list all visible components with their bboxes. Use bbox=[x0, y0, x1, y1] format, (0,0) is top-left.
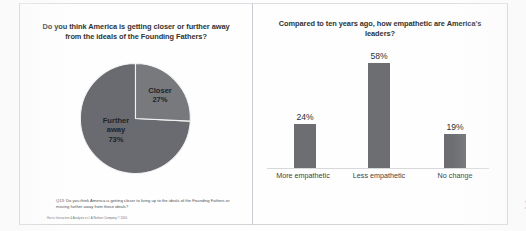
bar-group-no-change: 19% bbox=[419, 50, 491, 168]
pie-label-closer: Closer 27% bbox=[137, 86, 183, 105]
source-attribution: Harris Interactive & Analysis s.r.l. A N… bbox=[47, 216, 247, 220]
bar-rect-less-empathetic bbox=[368, 63, 390, 168]
bar-value-less-empathetic: 58% bbox=[370, 51, 387, 61]
pie-label-closer-text: Closer bbox=[137, 86, 183, 95]
bar-category-less-empathetic: Less empathetic bbox=[341, 171, 417, 180]
pie-label-further-away: Further away 73% bbox=[93, 116, 139, 144]
page-title-right: Compared to ten years ago, how empatheti… bbox=[253, 19, 507, 38]
footnote-q13: Q13: Do you think America is getting clo… bbox=[56, 198, 242, 209]
pie-label-further-text2: away bbox=[93, 125, 139, 134]
pie-label-further-text: Further bbox=[93, 116, 139, 125]
pie-chart-founding-fathers: Closer 27% Further away 73% bbox=[77, 60, 194, 177]
bar-rect-more-empathetic bbox=[294, 124, 316, 168]
bar-group-less-empathetic: 58% bbox=[343, 50, 415, 168]
bar-value-no-change: 19% bbox=[446, 122, 463, 132]
bar-category-no-change: No change bbox=[417, 171, 493, 180]
pie-label-further-value: 73% bbox=[93, 135, 139, 144]
bar-rect-no-change bbox=[444, 134, 466, 168]
panel-leaders-empathy: Compared to ten years ago, how empatheti… bbox=[253, 3, 508, 225]
panel-founding-fathers: Do you think America is getting closer o… bbox=[19, 3, 253, 225]
bar-value-more-empathetic: 24% bbox=[296, 112, 313, 122]
bar-chart-leaders-empathy: 24% 58% 19% bbox=[267, 50, 493, 168]
bar-category-more-empathetic: More empathetic bbox=[265, 171, 341, 180]
bar-group-more-empathetic: 24% bbox=[269, 50, 341, 168]
page-title-left: Do you think America is getting closer o… bbox=[20, 22, 252, 41]
report-page: Do you think America is getting closer o… bbox=[0, 0, 526, 231]
pie-label-closer-value: 27% bbox=[137, 95, 183, 104]
bar-chart-axis-line bbox=[267, 168, 489, 169]
